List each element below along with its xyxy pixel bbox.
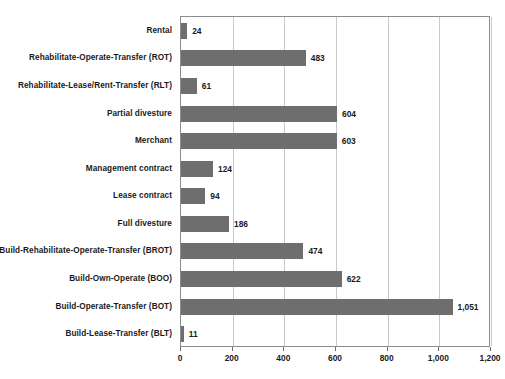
- bar-value-label: 603: [342, 136, 356, 146]
- gridline: [491, 17, 492, 346]
- bar: [181, 106, 337, 122]
- category-label: Rehabilitate-Lease/Rent-Transfer (RLT): [18, 80, 172, 89]
- x-tick-label: 400: [276, 353, 290, 363]
- x-axis: 02004006008001,0001,200: [180, 347, 490, 371]
- bar: [181, 299, 453, 315]
- bar-row: 24: [181, 23, 489, 39]
- x-tick-label: 1,000: [428, 353, 449, 363]
- bar: [181, 188, 205, 204]
- bar-row: 11: [181, 326, 489, 342]
- bar-row: 124: [181, 161, 489, 177]
- bar: [181, 133, 337, 149]
- x-tick-label: 1,200: [480, 353, 501, 363]
- bar-row: 483: [181, 50, 489, 66]
- x-tick-mark: [438, 347, 439, 351]
- bar-row: 603: [181, 133, 489, 149]
- category-label: Build-Operate-Transfer (BOT): [56, 301, 172, 310]
- bar-value-label: 24: [192, 26, 201, 36]
- bar-value-label: 483: [311, 53, 325, 63]
- category-label: Merchant: [135, 136, 172, 145]
- bar-row: 604: [181, 106, 489, 122]
- x-tick-mark: [283, 347, 284, 351]
- bar-value-label: 1,051: [458, 302, 479, 312]
- x-tick-mark: [490, 347, 491, 351]
- category-label: Management contract: [86, 163, 172, 172]
- x-tick-mark: [232, 347, 233, 351]
- bar-row: 622: [181, 271, 489, 287]
- bar-value-label: 61: [202, 81, 211, 91]
- bar-value-label: 622: [347, 274, 361, 284]
- bar-value-label: 186: [234, 219, 248, 229]
- category-label: Rehabilitate-Operate-Transfer (ROT): [29, 53, 172, 62]
- bar: [181, 271, 342, 287]
- category-label: Build-Rehabilitate-Operate-Transfer (BRO…: [0, 246, 172, 255]
- category-label: Rental: [146, 25, 172, 34]
- plot-area: 2448361604603124941864746221,05111: [180, 16, 490, 347]
- bar: [181, 326, 184, 342]
- bar-value-label: 604: [342, 109, 356, 119]
- x-tick-label: 200: [225, 353, 239, 363]
- bar: [181, 216, 229, 232]
- category-label: Lease contract: [113, 191, 172, 200]
- bar: [181, 161, 213, 177]
- bars-container: 2448361604603124941864746221,05111: [181, 17, 489, 346]
- category-label: Full divesture: [118, 218, 172, 227]
- x-tick-mark: [335, 347, 336, 351]
- category-label: Build-Own-Operate (BOO): [69, 274, 172, 283]
- bar-row: 94: [181, 188, 489, 204]
- bar-value-label: 124: [218, 164, 232, 174]
- bar-value-label: 11: [189, 329, 198, 339]
- bar-row: 186: [181, 216, 489, 232]
- category-axis-labels: RentalRehabilitate-Operate-Transfer (ROT…: [0, 16, 176, 347]
- bar-value-label: 474: [308, 246, 322, 256]
- x-tick-label: 600: [328, 353, 342, 363]
- category-label: Partial divesture: [107, 108, 172, 117]
- x-tick-label: 0: [178, 353, 183, 363]
- bar-value-label: 94: [210, 191, 219, 201]
- bar-row: 1,051: [181, 299, 489, 315]
- x-tick-mark: [180, 347, 181, 351]
- bar-row: 474: [181, 243, 489, 259]
- x-tick-label: 800: [380, 353, 394, 363]
- x-tick-mark: [387, 347, 388, 351]
- bar-row: 61: [181, 78, 489, 94]
- bar: [181, 243, 303, 259]
- bar: [181, 50, 306, 66]
- bar: [181, 23, 187, 39]
- bar: [181, 78, 197, 94]
- category-label: Build-Lease-Transfer (BLT): [65, 329, 172, 338]
- horizontal-bar-chart: RentalRehabilitate-Operate-Transfer (ROT…: [0, 0, 505, 379]
